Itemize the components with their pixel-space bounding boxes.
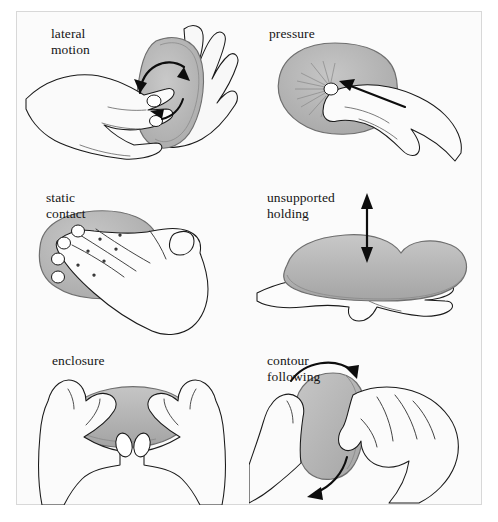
thumbs [114, 432, 153, 459]
enclosure-illustration [16, 345, 249, 505]
panel-label-unsupported-holding: unsupported holding [267, 190, 335, 221]
fingertips [52, 225, 85, 283]
panel-label-static-contact: static contact [46, 190, 86, 221]
panel-label-contour-following: contour following [267, 353, 320, 384]
object-shape [66, 387, 189, 448]
vertical-arrow [361, 193, 373, 263]
panel-unsupported-holding: unsupported holding [249, 179, 482, 345]
object-shape [284, 235, 467, 301]
panel-contour-following: contour following [249, 345, 482, 505]
rotation-arrow [140, 62, 184, 93]
panel-grid: lateral motion [16, 11, 482, 505]
object-shape [278, 43, 397, 134]
pressure-arrow [339, 79, 405, 107]
panel-lateral-motion: lateral motion [16, 11, 249, 179]
figure-root: lateral motion [0, 0, 498, 522]
object-shape [295, 373, 365, 479]
panel-label-lateral-motion: lateral motion [51, 26, 90, 57]
fingertip [324, 83, 338, 95]
thumb [169, 231, 194, 255]
panel-pressure: pressure [249, 11, 482, 179]
indentation-marks [295, 61, 345, 117]
panel-label-enclosure: enclosure [52, 353, 105, 369]
panel-static-contact: static contact [16, 179, 249, 345]
contour-arrow-bottom [307, 457, 347, 500]
panel-enclosure: enclosure [16, 345, 249, 505]
panel-label-pressure: pressure [269, 26, 315, 42]
object-shape [39, 211, 159, 299]
